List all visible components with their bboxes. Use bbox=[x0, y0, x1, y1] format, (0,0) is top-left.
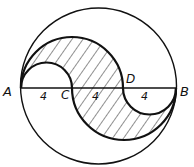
geometry-diagram: A C D B 4 4 4 bbox=[0, 0, 194, 167]
label-point-a: A bbox=[2, 84, 12, 99]
label-segment-ac: 4 bbox=[40, 90, 47, 103]
label-point-c: C bbox=[61, 88, 70, 102]
label-segment-db: 4 bbox=[141, 90, 148, 103]
label-segment-cd: 4 bbox=[92, 90, 99, 103]
label-point-b: B bbox=[180, 84, 189, 99]
label-point-d: D bbox=[126, 72, 135, 86]
